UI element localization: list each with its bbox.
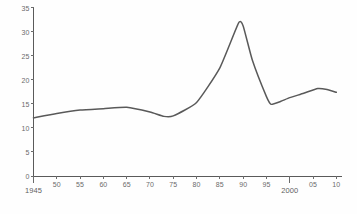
- x-tick-label: 65: [123, 181, 131, 188]
- x-tick-label-major: 2000: [281, 186, 298, 195]
- x-tick-label: 85: [216, 181, 224, 188]
- axis-group: [34, 8, 343, 176]
- y-tick-label: 0: [26, 173, 30, 180]
- line-chart: 05101520253035 1945505560657075808590952…: [0, 0, 357, 214]
- x-tick-label: 55: [76, 181, 84, 188]
- x-tick-label: 75: [169, 181, 177, 188]
- y-tick-label: 10: [22, 124, 30, 131]
- y-tick-label: 5: [26, 148, 30, 155]
- x-tick-label: 60: [99, 181, 107, 188]
- x-tick-label: 05: [309, 181, 317, 188]
- y-tick-label: 35: [22, 4, 30, 11]
- tick-marks: [31, 8, 336, 183]
- x-tick-label-major: 1945: [25, 186, 42, 195]
- x-tick-label: 70: [146, 181, 154, 188]
- x-tick-label: 10: [332, 181, 340, 188]
- y-tick-label: 20: [22, 76, 30, 83]
- data-series-group: [34, 22, 337, 118]
- data-line-1: [34, 22, 337, 118]
- x-tick-label: 80: [193, 181, 201, 188]
- y-tick-label: 30: [22, 28, 30, 35]
- x-tick-label: 50: [53, 181, 61, 188]
- x-tick-label: 95: [262, 181, 270, 188]
- x-tick-label: 90: [239, 181, 247, 188]
- y-tick-label: 25: [22, 52, 30, 59]
- y-tick-label: 15: [22, 100, 30, 107]
